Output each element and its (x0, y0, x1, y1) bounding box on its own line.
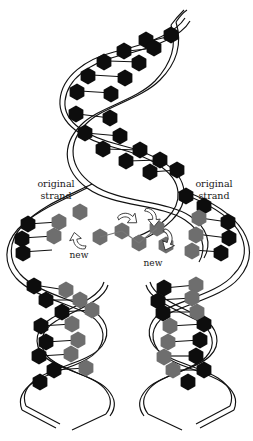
dna-replication-illustration (0, 0, 253, 441)
label-original-strand-left: original strand (24, 178, 88, 201)
label-new-strand-left: new (62, 250, 96, 262)
label-new-strand-right: new (136, 258, 170, 270)
label-original-strand-right: original strand (182, 178, 246, 201)
dna-replication-figure: original strand original strand new new (0, 0, 253, 441)
